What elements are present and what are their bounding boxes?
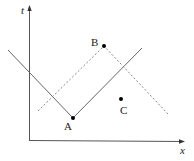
t-axis-label: t	[21, 5, 24, 16]
point-c-dot	[119, 97, 123, 101]
point-c-label: C	[120, 105, 127, 116]
x-axis	[29, 141, 184, 142]
x-axis-label: x	[180, 145, 185, 156]
point-a-label: A	[64, 121, 72, 132]
spacetime-diagram	[0, 0, 194, 161]
dashed-inverted-v-line	[38, 46, 168, 114]
point-b-label: B	[91, 37, 98, 48]
point-b-dot	[102, 44, 106, 48]
